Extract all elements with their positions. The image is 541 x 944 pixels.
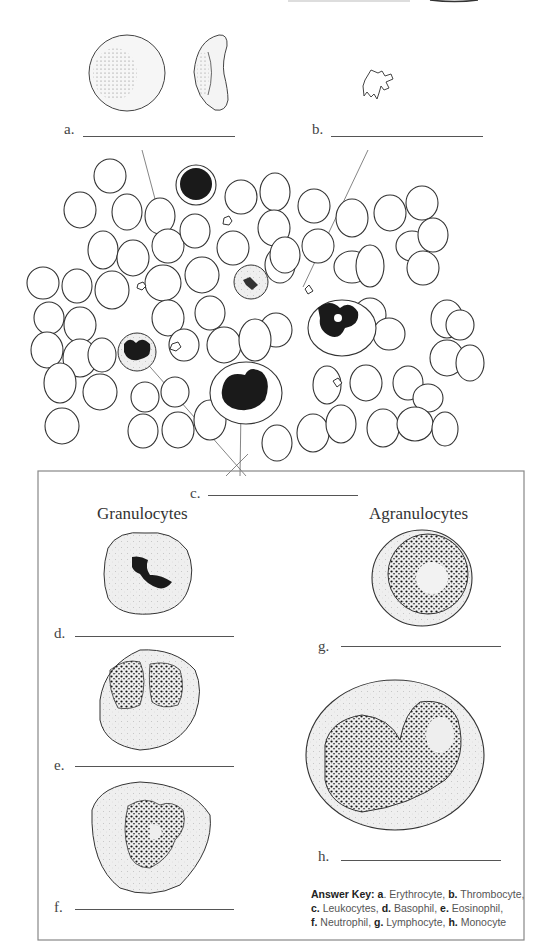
label-c: c. bbox=[190, 485, 200, 502]
monocyte-illustration bbox=[306, 680, 484, 830]
key-letter: h. bbox=[448, 916, 457, 928]
label-g: g. bbox=[318, 638, 329, 655]
heading-agranulocytes: Agranulocytes bbox=[369, 504, 468, 524]
label-a: a. bbox=[64, 121, 74, 138]
smear-basophil bbox=[234, 265, 268, 299]
answer-blank-f[interactable] bbox=[75, 909, 234, 910]
answer-blank-h[interactable] bbox=[341, 860, 501, 861]
key-name: Basophil, bbox=[394, 902, 437, 914]
heading-granulocytes: Granulocytes bbox=[97, 504, 188, 524]
key-letter: b. bbox=[448, 888, 457, 900]
answer-key-title: Answer Key: bbox=[311, 888, 375, 900]
key-name: Leukocytes, bbox=[323, 902, 379, 914]
lymphocyte-illustration bbox=[372, 530, 472, 626]
answer-blank-a[interactable] bbox=[83, 136, 235, 137]
key-letter: c. bbox=[311, 902, 320, 914]
label-d: d. bbox=[54, 625, 65, 642]
smear-lymphocyte bbox=[176, 165, 216, 205]
key-name: Erythrocyte, bbox=[389, 888, 445, 900]
label-f: f. bbox=[54, 899, 63, 916]
answer-blank-c[interactable] bbox=[208, 495, 358, 496]
neutrophil-illustration bbox=[92, 782, 211, 893]
key-letter: f. bbox=[311, 916, 317, 928]
answer-blank-g[interactable] bbox=[341, 646, 501, 647]
basophil-illustration bbox=[104, 533, 192, 615]
key-letter: d. bbox=[382, 902, 391, 914]
key-name: Monocyte bbox=[461, 916, 507, 928]
smear-neutrophil bbox=[308, 300, 376, 356]
answer-blank-b[interactable] bbox=[331, 136, 483, 137]
eosinophil-illustration bbox=[100, 650, 200, 750]
key-name: Neutrophil, bbox=[320, 916, 371, 928]
key-name: Lymphocyte, bbox=[386, 916, 445, 928]
key-letter: e. bbox=[440, 902, 449, 914]
answer-blank-d[interactable] bbox=[75, 636, 234, 637]
smear-eosinophil bbox=[118, 333, 156, 371]
key-name: Eosinophil, bbox=[452, 902, 503, 914]
smear-monocyte bbox=[210, 362, 282, 424]
label-e: e. bbox=[54, 757, 64, 774]
label-b: b. bbox=[312, 121, 323, 138]
answer-key: Answer Key: a. Erythrocyte, b. Thrombocy… bbox=[311, 887, 526, 929]
erythrocyte-illustration bbox=[89, 35, 228, 111]
blood-cell-diagram bbox=[0, 0, 541, 944]
key-name: Thrombocyte, bbox=[460, 888, 524, 900]
answer-blank-e[interactable] bbox=[75, 766, 234, 767]
key-letter: g. bbox=[374, 916, 383, 928]
label-h: h. bbox=[318, 848, 329, 865]
thrombocyte-illustration bbox=[363, 70, 393, 99]
